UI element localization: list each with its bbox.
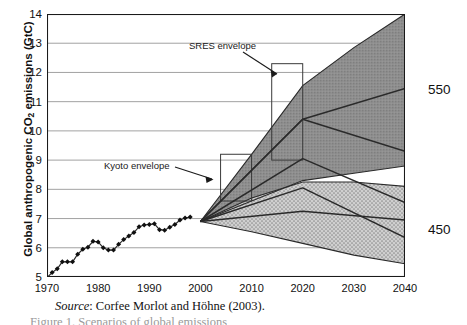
x-tick-1990: 1990 bbox=[125, 282, 173, 294]
x-axis-tick-labels: 19701980199020002010202020302040 bbox=[0, 282, 467, 298]
y-tick-14: 14 bbox=[16, 9, 42, 19]
y-tick-10: 10 bbox=[16, 126, 42, 136]
y-tick-6: 6 bbox=[16, 243, 42, 253]
x-tick-2020: 2020 bbox=[279, 282, 327, 294]
figure-container: Global anthropogenic CO2 emissions (GtC)… bbox=[0, 0, 467, 325]
x-tick-2010: 2010 bbox=[228, 282, 276, 294]
y-tick-5: 5 bbox=[16, 272, 42, 282]
historical-marker-1993 bbox=[162, 228, 167, 233]
y-tick-11: 11 bbox=[16, 97, 42, 107]
annotation-kyoto-envelope: Kyoto envelope bbox=[104, 160, 170, 171]
historical-marker-1990 bbox=[147, 222, 152, 227]
x-tick-2000: 2000 bbox=[176, 282, 224, 294]
y-tick-13: 13 bbox=[16, 38, 42, 48]
chart-svg bbox=[47, 14, 405, 277]
source-note: Source: Corfee Morlot and Höhne (2003). bbox=[55, 299, 265, 314]
figure-caption: Figure 1. Scenarios of global emissions bbox=[30, 315, 227, 325]
y-tick-9: 9 bbox=[16, 155, 42, 165]
x-tick-1980: 1980 bbox=[74, 282, 122, 294]
annotation-sres-envelope: SRES envelope bbox=[189, 40, 256, 51]
scenario-label-450: 450 bbox=[428, 222, 451, 237]
y-tick-12: 12 bbox=[16, 67, 42, 77]
data-group bbox=[47, 14, 405, 277]
source-label: Source bbox=[55, 299, 89, 313]
source-text: : Corfee Morlot and Höhne (2003). bbox=[89, 299, 265, 313]
y-tick-8: 8 bbox=[16, 184, 42, 194]
y-tick-7: 7 bbox=[16, 214, 42, 224]
historical-marker-1982 bbox=[106, 248, 111, 253]
historical-marker-1994 bbox=[167, 225, 172, 230]
y-axis-tick-labels: 567891011121314 bbox=[12, 0, 42, 325]
historical-marker-1974 bbox=[65, 259, 70, 264]
x-tick-2030: 2030 bbox=[330, 282, 378, 294]
historical-marker-1989 bbox=[142, 222, 147, 227]
x-tick-1970: 1970 bbox=[23, 282, 71, 294]
x-tick-2040: 2040 bbox=[381, 282, 429, 294]
plot-area bbox=[47, 14, 405, 277]
historical-marker-1997 bbox=[183, 215, 188, 220]
scenario-label-550: 550 bbox=[428, 82, 451, 97]
